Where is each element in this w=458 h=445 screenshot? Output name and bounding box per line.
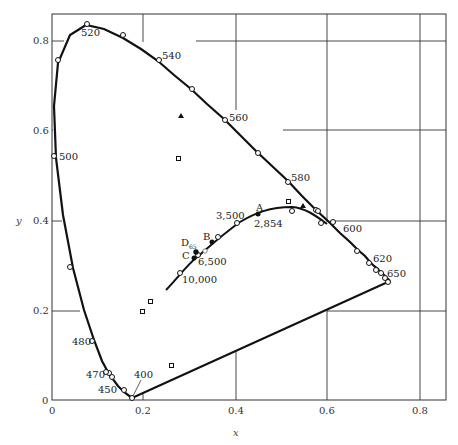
label-illuminant-c: C (182, 250, 190, 261)
label-520nm: 520 (81, 27, 100, 38)
x-tick-0.6: 0.6 (319, 405, 335, 416)
label-450nm: 450 (98, 384, 117, 395)
label-480nm: 480 (72, 336, 91, 347)
small-open-circle (203, 249, 207, 253)
label-470nm: 470 (86, 369, 105, 380)
triangle-marker (178, 113, 184, 118)
y-tick-0.4: 0.4 (33, 215, 49, 226)
chromaticity-chart: 400 450 470 480 500 520 540 560 580 600 … (0, 0, 458, 445)
y-axis-title: y (15, 215, 22, 226)
plot-frame (52, 14, 446, 400)
y-tick-0.8: 0.8 (33, 35, 49, 46)
label-illuminant-d-subscript: 65 (189, 243, 197, 250)
purple-line (132, 281, 390, 398)
illuminant-d65-point (193, 249, 198, 254)
label-560nm: 560 (229, 112, 248, 123)
x-tick-0.4: 0.4 (228, 405, 244, 416)
label-650nm: 650 (387, 268, 406, 279)
label-illuminant-b: B (203, 231, 210, 242)
square-marker (149, 300, 153, 304)
label-540nm: 540 (162, 50, 181, 61)
x-tick-0: 0 (49, 405, 55, 416)
label-10000k: 10,000 (182, 274, 217, 285)
label-illuminant-a: A (255, 202, 264, 213)
square-marker (141, 310, 145, 314)
square-marker (170, 364, 174, 368)
square-marker (177, 157, 181, 161)
label-600nm: 600 (343, 223, 362, 234)
label-3500k: 3,500 (216, 210, 245, 221)
y-tick-0.2: 0.2 (33, 305, 49, 316)
x-tick-0.2: 0.2 (135, 405, 151, 416)
triangle-markers (178, 113, 306, 208)
gridlines (52, 14, 446, 400)
x-axis-title: x (233, 427, 239, 438)
illuminant-c-point (192, 256, 197, 261)
label-2854k: 2,854 (254, 218, 283, 229)
label-580nm: 580 (291, 172, 310, 183)
y-tick-0: 0 (42, 395, 48, 406)
x-tick-0.8: 0.8 (412, 405, 428, 416)
label-400nm: 400 (134, 369, 153, 380)
square-marker (287, 200, 291, 204)
label-500nm: 500 (59, 151, 78, 162)
label-6500k: 6,500 (198, 256, 227, 267)
y-tick-0.6: 0.6 (33, 125, 49, 136)
triangle-marker (300, 203, 306, 208)
label-illuminant-d: D (181, 237, 189, 248)
label-620nm: 620 (373, 253, 392, 264)
